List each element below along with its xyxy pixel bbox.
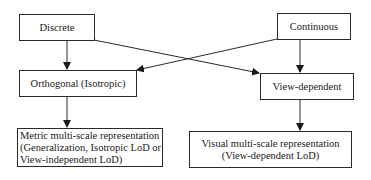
- node-view-dependent: View-dependent: [260, 73, 354, 100]
- node-continuous: Continuous: [277, 13, 351, 40]
- node-view-dependent-label: View-dependent: [273, 81, 342, 93]
- node-metric-line3: View-independent LoD): [20, 154, 162, 166]
- node-continuous-label: Continuous: [290, 21, 338, 33]
- node-orthogonal-label: Orthogonal (Isotropic): [31, 78, 126, 90]
- node-metric-line2: (Generalization, Isotropic LoD or: [20, 142, 162, 154]
- diagram-canvas: Discrete Continuous Orthogonal (Isotropi…: [0, 0, 371, 180]
- node-discrete-label: Discrete: [40, 22, 75, 34]
- node-metric-line1: Metric multi-scale representation: [20, 130, 162, 142]
- edge-continuous-to-orthogonal: [137, 39, 277, 70]
- node-visual-line2: (View-dependent LoD): [222, 150, 320, 162]
- node-visual-representation: Visual multi-scale representation (View-…: [189, 131, 352, 168]
- edge-discrete-to-view-dependent: [94, 40, 259, 73]
- node-discrete: Discrete: [19, 14, 95, 41]
- node-metric-representation: Metric multi-scale representation (Gener…: [17, 128, 163, 167]
- node-visual-line1: Visual multi-scale representation: [201, 138, 339, 150]
- node-orthogonal: Orthogonal (Isotropic): [19, 70, 137, 97]
